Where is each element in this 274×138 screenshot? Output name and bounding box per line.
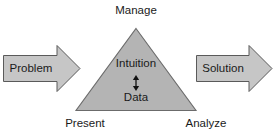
input-arrow-group: Problem [4,46,81,92]
diagram-svg: Problem Intuition Data Solution Manage P… [0,0,274,138]
output-arrow-group: Solution [197,46,273,92]
vertex-label-analyze: Analyze [186,117,227,129]
diagram-canvas: Problem Intuition Data Solution Manage P… [0,0,274,138]
problem-arrow-label: Problem [10,62,53,74]
vertex-label-present: Present [65,117,105,129]
inner-node-intuition-label: Intuition [116,57,156,69]
vertex-label-manage: Manage [115,4,157,16]
inner-node-data-label: Data [124,91,149,103]
triangle-group: Intuition Data [76,29,196,111]
solution-arrow-label: Solution [202,62,244,74]
